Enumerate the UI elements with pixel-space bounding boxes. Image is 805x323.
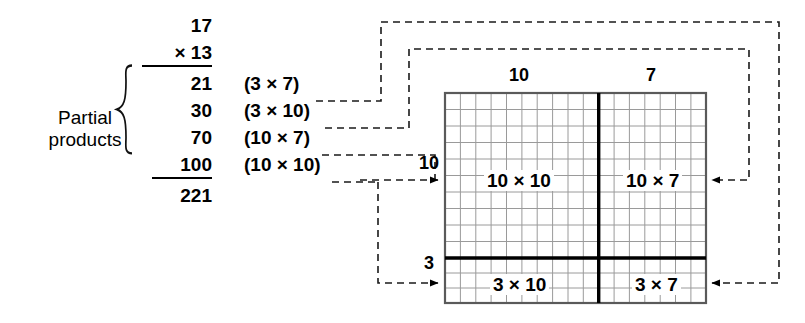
grid-side-label-top: 10 <box>419 154 439 172</box>
quadrant-caption-top-left: 10 × 10 <box>484 170 554 191</box>
figure-canvas: 17 × 13 21 30 70 100 221 (3 × 7) (3 × 10… <box>0 0 805 323</box>
partial-products-label-line1: Partial <box>44 107 126 129</box>
quadrant-caption-top-right: 10 × 7 <box>623 170 682 191</box>
grid-side-label-bottom: 3 <box>424 254 434 272</box>
partial-products-label-line2: products <box>34 129 136 151</box>
quadrant-caption-bottom-left: 3 × 10 <box>490 274 549 295</box>
partial-products-brace <box>0 0 805 323</box>
grid-top-label-right: 7 <box>646 66 656 84</box>
grid-top-label-left: 10 <box>509 66 529 84</box>
quadrant-caption-bottom-right: 3 × 7 <box>632 274 681 295</box>
